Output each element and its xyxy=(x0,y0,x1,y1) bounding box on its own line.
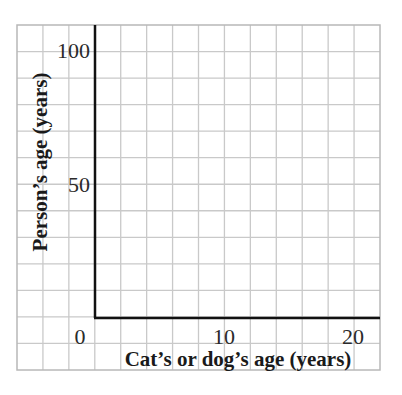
x-tick-label-0: 0 xyxy=(75,324,86,349)
x-axis-title: Cat’s or dog’s age (years) xyxy=(125,347,352,371)
x-tick-label-20: 20 xyxy=(342,324,364,349)
x-tick-label-10: 10 xyxy=(213,324,235,349)
chart: 100 50 0 10 20 Cat’s or dog’s age (years… xyxy=(0,0,402,395)
y-tick-label-50: 50 xyxy=(68,172,90,197)
y-axis-title: Person’s age (years) xyxy=(28,73,52,252)
y-tick-label-100: 100 xyxy=(57,38,90,63)
